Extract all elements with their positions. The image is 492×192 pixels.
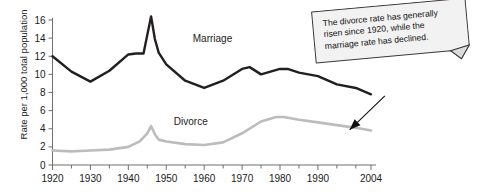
x-tick-label: 1950 [155,173,178,184]
y-tick-label: 12 [34,51,46,62]
series-label-divorce: Divorce [174,116,208,127]
y-tick-label: 0 [40,160,46,171]
y-tick-label: 6 [40,105,46,116]
annotation-arrow [350,96,385,130]
x-tick-label: 1940 [117,173,140,184]
series-label-marriage: Marriage [193,33,233,44]
x-tick-label: 1980 [269,173,292,184]
x-tick-label: 1930 [79,173,102,184]
x-tick-label: 1960 [193,173,216,184]
y-tick-label: 14 [34,33,46,44]
x-tick-label: 1970 [231,173,254,184]
x-tick-label: 2004 [360,173,383,184]
x-tick-label: 1990 [307,173,330,184]
y-tick-label: 2 [40,141,46,152]
x-tick-label: 1920 [41,173,64,184]
divorce-marriage-rate-chart: Rate per 1,000 total population 02468101… [0,0,492,192]
y-tick-label: 8 [40,87,46,98]
y-tick-label: 10 [34,69,46,80]
y-tick-label: 16 [34,15,46,26]
y-tick-label: 4 [40,123,46,134]
series-line-divorce [53,117,372,151]
